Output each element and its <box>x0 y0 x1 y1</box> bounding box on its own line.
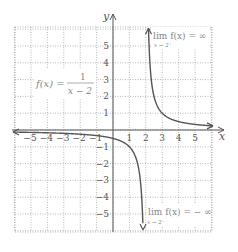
x-tick-label: −3 <box>56 133 70 143</box>
x-tick-label: −5 <box>23 133 37 143</box>
x-tick-label: 5 <box>192 133 198 143</box>
y-tick-label: −3 <box>96 175 110 185</box>
y-tick-label: 3 <box>103 75 109 85</box>
y-tick-label: −5 <box>96 209 110 219</box>
function-denominator: x − 2 <box>68 86 92 96</box>
y-tick-label: 5 <box>103 41 109 51</box>
limit-top-text: lim f(x) = ∞ <box>153 31 206 41</box>
limit-top-label: lim f(x) = ∞ x → 2⁺ <box>152 27 210 49</box>
x-tick-label: 2 <box>143 133 149 143</box>
x-tick-label: −4 <box>40 133 54 143</box>
y-tick-label: 2 <box>103 91 109 101</box>
y-tick-label: 4 <box>103 58 109 68</box>
y-tick-label: 1 <box>103 108 109 118</box>
function-numerator: 1 <box>80 72 86 82</box>
y-axis-label: y <box>102 10 110 23</box>
x-tick-label: 3 <box>159 133 165 143</box>
limit-bottom-subscript: x → 2⁻ <box>147 219 165 225</box>
limit-top-subscript: x → 2⁺ <box>154 42 172 48</box>
y-tick-label: −2 <box>96 159 109 169</box>
curve-arrow-down-icon <box>140 224 146 230</box>
y-tick-label: −4 <box>96 192 110 202</box>
y-tick-label: −1 <box>96 142 109 152</box>
limit-bottom-label: lim f(x) = − ∞ x → 2⁻ <box>147 203 212 227</box>
function-lhs: f(x) = <box>35 78 65 89</box>
x-axis-label: x <box>219 130 226 143</box>
function-label: f(x) = 1 x − 2 <box>34 69 96 99</box>
limit-bottom-text: lim f(x) = − ∞ <box>148 207 212 217</box>
x-tick-label: 1 <box>127 133 133 143</box>
curve-left-branch <box>13 132 143 223</box>
function-graph: −5−4−3−2−112345−5−4−3−2−112345 y x f(x) … <box>0 0 238 252</box>
x-tick-label: 4 <box>176 133 182 143</box>
